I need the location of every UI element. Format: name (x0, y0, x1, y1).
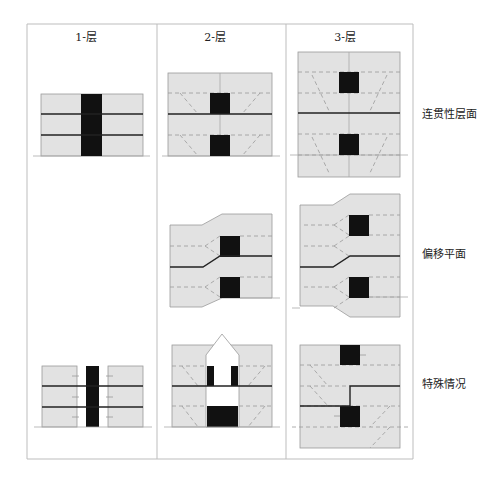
layering-diagram: 1-层 2-层 3-层 连贯性层面 偏移平面 特殊情况 (0, 0, 495, 480)
diagram-2layer-special (164, 334, 280, 427)
diagram-1layer-continuous (33, 94, 150, 156)
diagram-2layer-continuous (162, 73, 280, 156)
row-label-offset: 偏移平面 (422, 247, 466, 261)
diagram-3layer-special (292, 345, 408, 448)
diagram-2layer-offset (170, 214, 280, 307)
diagram-3layer-offset (292, 194, 408, 317)
column-title-3: 3-层 (334, 31, 356, 44)
row-label-special: 特殊情况 (422, 377, 466, 391)
column-title-2: 2-层 (204, 31, 226, 44)
diagram-3layer-continuous (290, 52, 408, 177)
diagram-1layer-special (34, 366, 152, 427)
column-title-1: 1-层 (75, 31, 97, 44)
row-label-continuous: 连贯性层面 (422, 107, 477, 121)
